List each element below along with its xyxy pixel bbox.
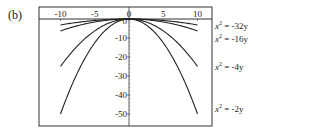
y-tick-label: -10	[115, 33, 127, 43]
y-tick-label: -30	[115, 71, 127, 81]
series-label: x2 = -16y	[215, 33, 248, 44]
x-tick-label: 5	[161, 9, 166, 19]
series-label: x2 = -2y	[215, 103, 244, 114]
x-tick-label: -5	[91, 9, 99, 19]
y-tick-label: 0	[123, 16, 128, 26]
y-tick-label: -50	[115, 109, 127, 119]
x-tick-label: -10	[55, 9, 67, 19]
x-tick-label: 0	[127, 9, 132, 19]
series-label: x2 = -32y	[215, 20, 248, 31]
series-label: x2 = -4y	[215, 61, 244, 72]
x-tick-label: 10	[193, 9, 203, 19]
y-tick-label: -20	[115, 52, 127, 62]
y-tick-label: -40	[115, 90, 127, 100]
